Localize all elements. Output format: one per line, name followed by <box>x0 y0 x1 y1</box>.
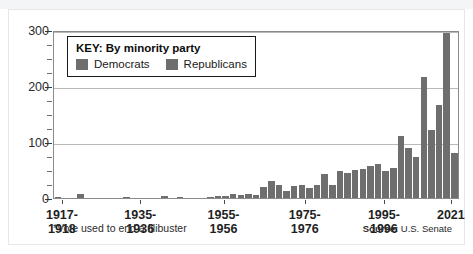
bar <box>215 196 221 198</box>
bar <box>123 197 129 198</box>
bar <box>55 197 61 198</box>
bar <box>428 130 434 198</box>
bar <box>314 185 320 198</box>
legend-items: DemocratsRepublicans <box>76 58 247 70</box>
y-tick-mark <box>47 157 52 158</box>
chart-figure: 0100200300 1917- 19181935- 19361955- 195… <box>0 0 473 254</box>
chart-legend: KEY: By minority party DemocratsRepublic… <box>67 36 256 77</box>
top-edge-strip <box>0 0 473 9</box>
y-axis: 0100200300 <box>9 10 49 254</box>
bar <box>268 181 274 198</box>
y-tick-mark <box>47 59 52 60</box>
bar <box>177 197 183 198</box>
y-tick-label: 200 <box>9 81 49 94</box>
bar <box>421 77 427 198</box>
bar <box>222 196 228 198</box>
bar <box>238 195 244 198</box>
bar <box>245 194 251 198</box>
x-tick-mark <box>384 200 385 204</box>
legend-swatch <box>76 59 88 70</box>
bar <box>352 170 358 198</box>
y-tick-mark <box>47 115 52 116</box>
source-value: U.S. Senate <box>401 223 452 234</box>
bar <box>413 157 419 199</box>
legend-item: Democrats <box>76 58 150 70</box>
x-tick-mark <box>305 200 306 204</box>
legend-title: KEY: By minority party <box>76 42 247 54</box>
bar <box>436 105 442 198</box>
y-tick-mark <box>47 171 52 172</box>
legend-label: Democrats <box>94 58 150 70</box>
bar <box>390 168 396 198</box>
bar <box>337 171 343 198</box>
x-tick-mark <box>451 200 452 204</box>
bar <box>367 166 373 198</box>
bar <box>321 174 327 198</box>
y-tick-label: 300 <box>9 25 49 38</box>
bar <box>260 187 266 198</box>
bar <box>451 153 457 198</box>
bar <box>230 194 236 198</box>
y-tick-mark <box>47 101 52 102</box>
legend-label: Republicans <box>184 58 247 70</box>
bar <box>207 197 213 198</box>
y-tick-label: 100 <box>9 137 49 150</box>
y-tick-mark <box>47 45 52 46</box>
bar <box>360 169 366 198</box>
bar <box>283 191 289 198</box>
y-tick-mark <box>47 73 52 74</box>
legend-swatch <box>166 59 178 70</box>
bar <box>382 171 388 198</box>
bar <box>276 185 282 198</box>
y-tick-mark <box>47 185 52 186</box>
chart-card: 0100200300 1917- 19181935- 19361955- 195… <box>8 9 465 245</box>
bar <box>253 195 259 198</box>
bar <box>443 33 449 198</box>
bar <box>77 194 83 198</box>
x-tick-mark <box>62 200 63 204</box>
y-tick-label: 0 <box>9 193 49 206</box>
x-tick-label: 1955- 1956 <box>208 208 240 236</box>
y-tick-mark <box>47 129 52 130</box>
x-tick-label: 2021 <box>437 208 465 222</box>
bar <box>329 185 335 198</box>
source-label: Source: <box>363 223 398 234</box>
bar <box>398 136 404 198</box>
bar <box>344 173 350 198</box>
footnote: *Vote used to end a filibuster <box>53 222 187 234</box>
bar <box>375 164 381 198</box>
bar <box>405 148 411 198</box>
x-tick-label: 1975- 1976 <box>289 208 321 236</box>
bar <box>299 185 305 198</box>
legend-item: Republicans <box>166 58 247 70</box>
bar <box>291 186 297 198</box>
x-tick-mark <box>224 200 225 204</box>
x-tick-mark <box>140 200 141 204</box>
source-note: Source: U.S. Senate <box>363 223 452 234</box>
bar <box>161 196 167 198</box>
bar <box>306 188 312 199</box>
